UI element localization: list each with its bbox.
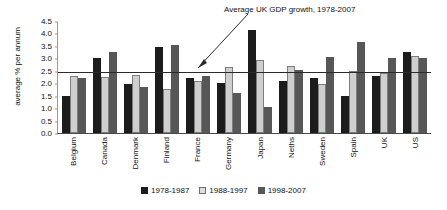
legend-item: 1988-1997 (199, 186, 247, 195)
bar (279, 81, 287, 133)
x-axis-category-cell: Neths (275, 134, 306, 180)
x-axis-category-label: Sweden (317, 137, 326, 166)
x-axis-category-cell: Finland (151, 134, 182, 180)
x-axis-category-cell: Denmark (119, 134, 150, 180)
bar-group (120, 22, 151, 133)
bar (163, 89, 171, 133)
bar-group (400, 22, 431, 133)
bar (217, 83, 225, 133)
x-axis-category-label: Denmark (130, 137, 139, 169)
x-axis-category-cell: US (400, 134, 431, 180)
bar-groups (58, 22, 431, 133)
y-axis-tick-label: 2.0 (41, 80, 52, 88)
bar (109, 52, 117, 133)
legend-swatch-icon (199, 187, 206, 194)
bar (372, 76, 380, 133)
x-axis-category-label: Japan (255, 137, 264, 159)
x-axis-category-labels: BelgiumCanadaDenmarkFinlandFranceGermany… (57, 134, 431, 180)
bar-group (213, 22, 244, 133)
x-axis-category-label: Belgium (68, 137, 77, 166)
y-axis-tick-label: 2.5 (41, 68, 52, 76)
x-axis-category-cell: Spain (338, 134, 369, 180)
x-axis-category-label: France (193, 137, 202, 162)
x-axis-category-label: Canada (99, 137, 108, 165)
y-axis-title: average % per annum (13, 12, 22, 122)
bar-group (89, 22, 120, 133)
bar (70, 76, 78, 133)
y-axis-tick-label: 3.5 (41, 43, 52, 51)
bar (233, 93, 241, 133)
x-axis-category-label: UK (380, 137, 389, 148)
x-axis-category-cell: Canada (88, 134, 119, 180)
bar (264, 107, 272, 133)
chart-legend: 1978-19871988-19971998-2007 (0, 186, 447, 195)
average-uk-gdp-reference-line (58, 72, 431, 73)
x-axis-category-cell: Belgium (57, 134, 88, 180)
bar (403, 52, 411, 133)
legend-item: 1998-2007 (258, 186, 306, 195)
bar (62, 96, 70, 133)
gdp-growth-bar-chart: Average UK GDP growth, 1978-2007 average… (0, 0, 447, 210)
x-axis-category-cell: Germany (213, 134, 244, 180)
bar (349, 71, 357, 133)
bar-group (276, 22, 307, 133)
reference-line-annotation-label: Average UK GDP growth, 1978-2007 (224, 5, 355, 15)
x-axis-category-cell: Japan (244, 134, 275, 180)
bar (78, 78, 86, 133)
y-axis-tick-label: 1.5 (41, 93, 52, 101)
plot-area (57, 22, 431, 134)
bar (341, 96, 349, 133)
bar-group (307, 22, 338, 133)
bar (388, 58, 396, 133)
legend-item: 1978-1987 (141, 186, 189, 195)
x-axis-category-label: Spain (349, 137, 358, 157)
x-axis-category-cell: Sweden (306, 134, 337, 180)
bar (380, 73, 388, 133)
bar (186, 78, 194, 133)
bar-group (182, 22, 213, 133)
legend-label: 1988-1997 (209, 186, 247, 195)
bar (225, 67, 233, 133)
bar (357, 42, 365, 133)
bar (326, 57, 334, 133)
y-axis-tick-label: 0.0 (41, 130, 52, 138)
bar-group (58, 22, 89, 133)
bar (124, 84, 132, 133)
bar (318, 84, 326, 133)
x-axis-category-label: Finland (162, 137, 171, 163)
legend-label: 1998-2007 (268, 186, 306, 195)
x-axis-category-cell: France (182, 134, 213, 180)
bar (310, 78, 318, 133)
bar (202, 76, 210, 133)
legend-swatch-icon (258, 187, 265, 194)
bar (419, 58, 427, 133)
bar (155, 47, 163, 133)
y-axis-ticks: 0.00.51.01.52.02.53.03.54.04.5 (22, 22, 55, 134)
bar (101, 77, 109, 133)
y-axis-tick-label: 1.0 (41, 105, 52, 113)
x-axis-category-label: Neths (286, 137, 295, 158)
bar (411, 56, 419, 133)
bar-group (151, 22, 182, 133)
bar (256, 60, 264, 133)
bar (93, 58, 101, 133)
bar (287, 66, 295, 133)
y-axis-tick-label: 4.5 (41, 18, 52, 26)
bar (295, 70, 303, 133)
bar (132, 75, 140, 133)
y-axis-tick-label: 3.0 (41, 55, 52, 63)
legend-label: 1978-1987 (151, 186, 189, 195)
bar (171, 45, 179, 133)
bar (194, 81, 202, 133)
x-axis-category-label: Germany (224, 137, 233, 170)
bar-group (244, 22, 275, 133)
x-axis-category-cell: UK (369, 134, 400, 180)
legend-swatch-icon (141, 187, 148, 194)
bar-group (338, 22, 369, 133)
y-axis-tick-label: 0.5 (41, 118, 52, 126)
x-axis-category-label: US (411, 137, 420, 148)
bar (140, 87, 148, 133)
bar-group (369, 22, 400, 133)
bar (248, 30, 256, 133)
y-axis-tick-label: 4.0 (41, 30, 52, 38)
